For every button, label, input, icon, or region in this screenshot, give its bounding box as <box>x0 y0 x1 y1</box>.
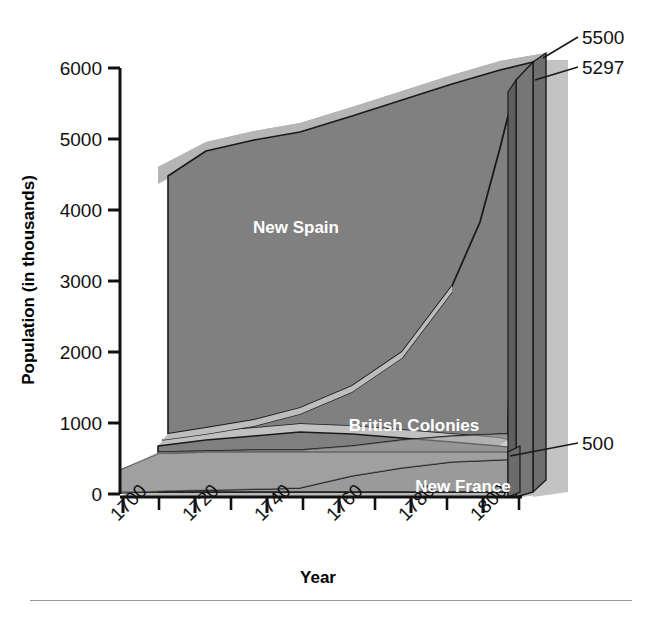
series-label-new-france: New France <box>415 477 510 496</box>
y-tick-label-1000: 1000 <box>60 413 102 434</box>
y-axis-title: Population (in thousands) <box>19 175 38 385</box>
x-axis-title: Year <box>300 568 336 587</box>
y-tick-label-4000: 4000 <box>60 200 102 221</box>
footer-divider <box>30 600 632 601</box>
callout-label-5297: 5297 <box>582 57 624 78</box>
y-tick-label-5000: 5000 <box>60 129 102 150</box>
right-side-faces <box>508 53 546 497</box>
population-area-chart: 6000 5000 4000 3000 2000 1000 0 1700 <box>0 0 662 623</box>
y-tick-label-3000: 3000 <box>60 271 102 292</box>
y-tick-label-6000: 6000 <box>60 58 102 79</box>
y-tick-label-2000: 2000 <box>60 342 102 363</box>
callout-label-5500: 5500 <box>582 27 624 48</box>
callout-label-500: 500 <box>582 433 614 454</box>
series-label-british-colonies: British Colonies <box>349 416 479 435</box>
y-tick-labels: 6000 5000 4000 3000 2000 1000 0 <box>60 58 102 505</box>
y-axis <box>108 68 120 494</box>
leader-line-5500 <box>543 37 578 58</box>
series-label-new-spain: New Spain <box>253 218 339 237</box>
y-tick-label-0: 0 <box>91 484 102 505</box>
figure-container: 6000 5000 4000 3000 2000 1000 0 1700 <box>0 0 662 623</box>
new-spain-area <box>168 62 533 440</box>
